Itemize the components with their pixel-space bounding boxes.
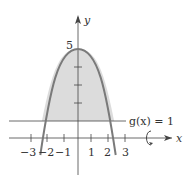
x-tick-label: 2 — [104, 146, 111, 159]
x-tick-label: 3 — [122, 146, 129, 159]
line-g-label: g(x) = 1 — [129, 115, 174, 128]
y-peak-label: 5 — [66, 39, 73, 52]
x-tick-label: −1 — [55, 146, 71, 159]
x-tick-label: −2 — [38, 146, 54, 159]
x-axis-label: x — [176, 132, 183, 145]
region-diagram: y x 5 g(x) = 1 −3 −2 −1 1 2 3 — [0, 0, 192, 183]
y-axis-label: y — [83, 14, 91, 27]
x-tick-label: −3 — [20, 146, 36, 159]
x-tick-label: 1 — [88, 146, 95, 159]
